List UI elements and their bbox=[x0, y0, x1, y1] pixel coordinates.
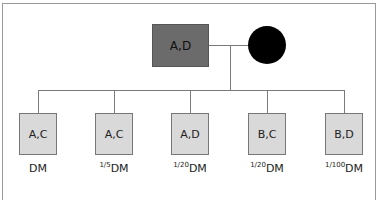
fraction: 1/20 bbox=[173, 161, 189, 169]
child-genotype: A,C bbox=[29, 128, 48, 141]
child-genotype: A,C bbox=[105, 128, 124, 141]
child-genotype: A,D bbox=[180, 128, 200, 141]
child-node: B,D bbox=[325, 113, 363, 155]
child-drop-line bbox=[267, 90, 268, 113]
father-node: A,D bbox=[152, 24, 209, 67]
child-caption: 1/5DM bbox=[84, 161, 144, 175]
child-caption: 1/20DM bbox=[237, 161, 297, 175]
child-node: A,C bbox=[95, 113, 133, 155]
child-caption: 1/20DM bbox=[160, 161, 220, 175]
caption-label: DM bbox=[111, 162, 129, 175]
child-drop-line bbox=[344, 90, 345, 113]
caption-label: DM bbox=[266, 162, 284, 175]
caption-label: DM bbox=[189, 162, 207, 175]
child-node: A,D bbox=[171, 113, 209, 155]
marriage-line bbox=[209, 45, 249, 46]
child-genotype: B,C bbox=[258, 128, 277, 141]
sibship-line bbox=[38, 90, 345, 91]
caption-label: DM bbox=[345, 162, 363, 175]
fraction: 1/5 bbox=[99, 161, 110, 169]
child-drop-line bbox=[38, 90, 39, 113]
mother-node bbox=[248, 26, 286, 64]
fraction: 1/20 bbox=[250, 161, 266, 169]
child-caption: 1/100DM bbox=[314, 161, 374, 175]
fraction: 1/100 bbox=[325, 161, 345, 169]
child-node: B,C bbox=[248, 113, 286, 155]
descent-line bbox=[230, 45, 231, 90]
father-genotype: A,D bbox=[170, 39, 191, 53]
child-node: A,C bbox=[19, 113, 57, 155]
child-caption: DM bbox=[8, 161, 68, 175]
child-drop-line bbox=[114, 90, 115, 113]
caption-label: DM bbox=[29, 162, 47, 175]
child-drop-line bbox=[190, 90, 191, 113]
child-genotype: B,D bbox=[334, 128, 354, 141]
